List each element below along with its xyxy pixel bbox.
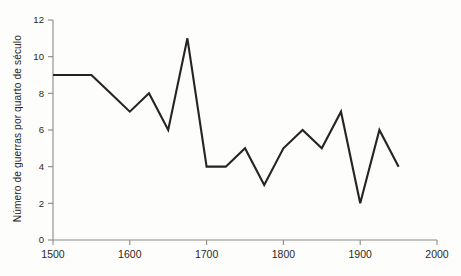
y-tick-label: 12 xyxy=(33,14,44,25)
x-tick-label: 1900 xyxy=(349,248,373,260)
y-tick-label: 4 xyxy=(39,161,45,172)
x-tick-label: 1800 xyxy=(272,248,296,260)
x-axis-ticks xyxy=(53,240,437,245)
chart-figure: Número de guerras por quarto de século 0… xyxy=(0,0,461,276)
y-tick-label: 0 xyxy=(39,234,44,245)
y-tick-label: 2 xyxy=(39,198,44,209)
chart-plot-area: 024681012 150016001700180019002000 xyxy=(0,0,461,276)
y-tick-label: 10 xyxy=(33,51,44,62)
y-tick-label: 6 xyxy=(39,124,44,135)
x-tick-label: 1700 xyxy=(195,248,219,260)
y-axis-tick-labels: 024681012 xyxy=(33,14,44,245)
x-axis-tick-labels: 150016001700180019002000 xyxy=(41,248,449,260)
data-series-line xyxy=(53,38,399,203)
y-axis-ticks xyxy=(48,20,53,240)
x-tick-label: 1600 xyxy=(118,248,142,260)
y-tick-label: 8 xyxy=(39,88,44,99)
x-tick-label: 2000 xyxy=(425,248,449,260)
x-tick-label: 1500 xyxy=(41,248,65,260)
